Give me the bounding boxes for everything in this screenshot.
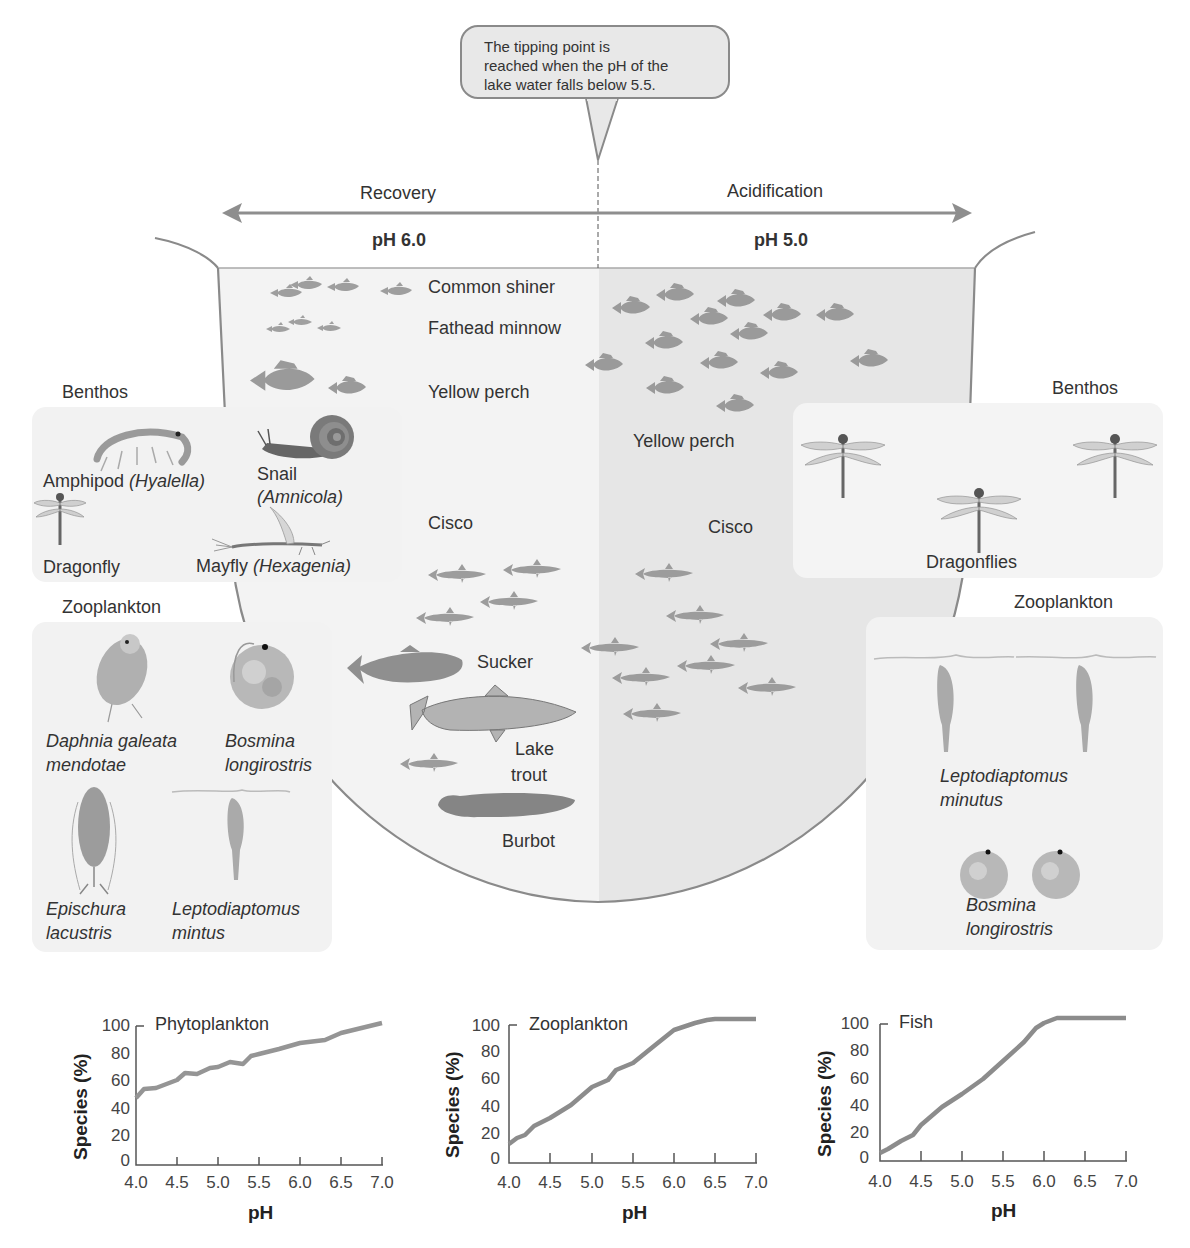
x-tick: 6.5	[1065, 1172, 1105, 1192]
x-tick: 4.0	[860, 1172, 900, 1192]
lake-trout-label-2: trout	[511, 764, 547, 786]
phytoplankton-chart: Species (%) Phytoplankton 100 80 60 40 2…	[60, 1010, 410, 1240]
dragonfly-icon-2	[937, 488, 1021, 553]
bosmina-right-label-2: longirostris	[966, 918, 1053, 940]
mayfly-scientific-name: (Hexagenia)	[253, 556, 351, 576]
common-shiner-label: Common shiner	[428, 276, 555, 298]
leptodiaptomus-icon	[172, 790, 290, 880]
fish-plot	[805, 1010, 1155, 1180]
x-tick: 4.5	[530, 1173, 570, 1193]
amphipod-icon	[97, 432, 188, 472]
phytoplankton-plot	[60, 1010, 410, 1180]
daphnia-icon	[88, 632, 156, 722]
burbot-fish	[438, 793, 575, 817]
leptodiaptomus-left-label-2: mintus	[172, 922, 225, 944]
amphipod-common-name: Amphipod	[43, 471, 129, 491]
x-tick: 6.5	[321, 1173, 361, 1193]
mayfly-common-name: Mayfly	[196, 556, 253, 576]
bosmina-right-label-1: Bosmina	[966, 894, 1036, 916]
fathead-minnow-label: Fathead minnow	[428, 317, 561, 339]
x-tick: 5.5	[613, 1173, 653, 1193]
bosmina-left-label-1: Bosmina	[225, 730, 295, 752]
snail-scientific-label: (Amnicola)	[257, 486, 343, 508]
dragonflies-label: Dragonflies	[926, 551, 1017, 573]
phytoplankton-series	[136, 1023, 382, 1098]
amphipod-label: Amphipod (Hyalella)	[43, 470, 205, 492]
right-zooplankton-title: Zooplankton	[1014, 591, 1113, 613]
x-tick: 5.0	[198, 1173, 238, 1193]
x-tick: 6.0	[1024, 1172, 1064, 1192]
zooplankton-series	[509, 1019, 756, 1144]
x-tick: 5.0	[942, 1172, 982, 1192]
lake-trout-label-1: Lake	[515, 738, 554, 760]
x-tick: 7.0	[362, 1173, 402, 1193]
x-tick: 4.5	[901, 1172, 941, 1192]
zooplankton-plot	[430, 1010, 780, 1180]
epischura-icon	[72, 787, 116, 894]
left-benthos-title: Benthos	[62, 381, 128, 403]
zooplankton-chart: Species (%) Zooplankton 100 80 60 40 20 …	[430, 1010, 780, 1240]
bosmina-icon-2	[1032, 850, 1080, 900]
fish-x-axis-label: pH	[991, 1200, 1016, 1222]
bosmina-icon	[230, 643, 294, 709]
leptodiaptomus-right-label-1: Leptodiaptomus	[940, 765, 1068, 787]
zooplankton-x-axis-label: pH	[622, 1202, 647, 1224]
burbot-label: Burbot	[502, 830, 555, 852]
x-tick: 4.0	[116, 1173, 156, 1193]
fish-chart: Species (%) Fish 100 80 60 40 20 0 4.0 4…	[805, 1010, 1155, 1240]
amphipod-scientific-name: (Hyalella)	[129, 471, 205, 491]
x-tick: 6.5	[695, 1173, 735, 1193]
cisco-left-label: Cisco	[428, 512, 473, 534]
x-tick: 5.5	[983, 1172, 1023, 1192]
x-tick: 6.0	[654, 1173, 694, 1193]
snail-label: Snail	[257, 463, 297, 485]
x-tick: 4.0	[489, 1173, 529, 1193]
sucker-fish	[347, 645, 463, 684]
daphnia-label-2: mendotae	[46, 754, 126, 776]
x-tick: 4.5	[157, 1173, 197, 1193]
lake-trout-fish	[410, 685, 576, 742]
bosmina-left-label-2: longirostris	[225, 754, 312, 776]
cisco-right-label: Cisco	[708, 516, 753, 538]
x-tick: 7.0	[736, 1173, 776, 1193]
x-tick: 5.5	[239, 1173, 279, 1193]
yellow-perch-left-label: Yellow perch	[428, 381, 529, 403]
dragonfly-icon-3	[1073, 434, 1157, 498]
leptodiaptomus-icon-1	[874, 655, 1014, 752]
x-tick: 7.0	[1106, 1172, 1146, 1192]
right-benthos-title: Benthos	[1052, 377, 1118, 399]
leptodiaptomus-left-label-1: Leptodiaptomus	[172, 898, 300, 920]
leptodiaptomus-icon-2	[1016, 655, 1156, 752]
x-tick: 5.0	[572, 1173, 612, 1193]
yellow-perch-right-label: Yellow perch	[633, 430, 734, 452]
mayfly-icon	[212, 507, 330, 555]
snail-icon	[258, 415, 354, 459]
epischura-label-1: Epischura	[46, 898, 126, 920]
left-zooplankton-title: Zooplankton	[62, 596, 161, 618]
dragonfly-icon	[34, 493, 86, 545]
sucker-label: Sucker	[477, 651, 533, 673]
x-tick: 6.0	[280, 1173, 320, 1193]
dragonfly-icon-1	[801, 434, 885, 498]
phytoplankton-x-axis-label: pH	[248, 1202, 273, 1224]
dragonfly-label: Dragonfly	[43, 556, 120, 578]
mayfly-label: Mayfly (Hexagenia)	[196, 555, 351, 577]
daphnia-label-1: Daphnia galeata	[46, 730, 177, 752]
epischura-label-2: lacustris	[46, 922, 112, 944]
bosmina-icon-1	[960, 850, 1008, 900]
fish-series	[880, 1018, 1126, 1153]
leptodiaptomus-right-label-2: minutus	[940, 789, 1003, 811]
